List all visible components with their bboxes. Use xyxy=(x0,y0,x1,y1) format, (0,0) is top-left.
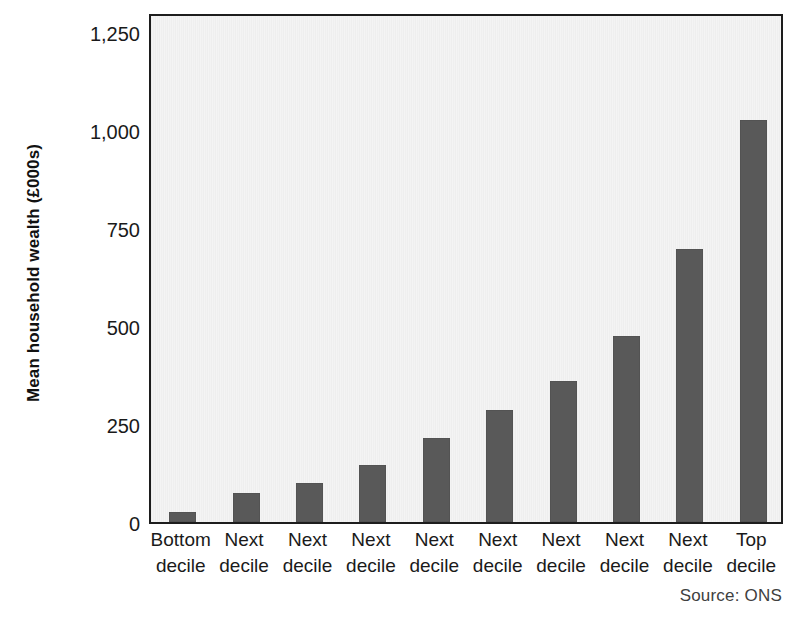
bar xyxy=(550,381,577,522)
plot-area xyxy=(149,14,783,524)
bar xyxy=(423,438,450,522)
x-tick-label-line: Top xyxy=(714,527,788,553)
y-tick-label: 0 xyxy=(58,513,140,536)
bar xyxy=(486,410,513,522)
bar xyxy=(613,336,640,522)
x-tick-label-line: decile xyxy=(714,553,788,579)
bar xyxy=(296,483,323,522)
bar-chart-figure: Mean household wealth (£000s) 0250500750… xyxy=(0,0,796,617)
bar xyxy=(359,465,386,522)
y-tick-label: 1,000 xyxy=(58,120,140,143)
bar xyxy=(233,493,260,522)
bar xyxy=(740,120,767,522)
bars-layer xyxy=(151,16,781,522)
y-tick-label: 250 xyxy=(58,414,140,437)
x-axis-tick-labels: BottomdecileNextdecileNextdecileNextdeci… xyxy=(149,527,783,585)
bar xyxy=(169,512,196,522)
y-tick-label: 1,250 xyxy=(58,22,140,45)
y-tick-label: 500 xyxy=(58,316,140,339)
y-tick-label: 750 xyxy=(58,218,140,241)
x-tick-label: Topdecile xyxy=(714,527,788,579)
bar xyxy=(676,249,703,522)
y-axis-title: Mean household wealth (£000s) xyxy=(24,63,44,483)
source-note: Source: ONS xyxy=(680,586,782,606)
y-axis-tick-labels: 02505007501,0001,250 xyxy=(58,0,140,617)
